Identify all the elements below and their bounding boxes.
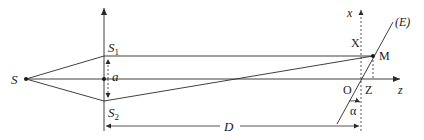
label-origin: O bbox=[343, 83, 352, 97]
angle-alpha-arc bbox=[349, 101, 360, 102]
source-point bbox=[24, 77, 28, 81]
label-z-axis: z bbox=[397, 83, 403, 97]
ray-s-to-s2 bbox=[26, 79, 104, 101]
label-slit2: S2 bbox=[108, 105, 119, 122]
label-slit1: S1 bbox=[108, 40, 119, 57]
ray-s2-to-m bbox=[104, 56, 373, 101]
point-m bbox=[371, 54, 375, 58]
label-x-coord: X bbox=[351, 36, 360, 50]
double-slit-diagram: S S1 S2 a D x (E) X M O Z z α bbox=[0, 0, 424, 140]
label-slit-separation: a bbox=[112, 69, 119, 84]
label-source: S bbox=[11, 72, 18, 87]
screen-e bbox=[337, 22, 393, 124]
diagram-canvas: S S1 S2 a D x (E) X M O Z z α bbox=[0, 0, 424, 140]
label-screen: (E) bbox=[395, 15, 410, 29]
slit-center-point bbox=[102, 77, 106, 81]
label-angle-alpha: α bbox=[350, 104, 357, 118]
label-z-coord: Z bbox=[365, 83, 372, 97]
label-x-axis: x bbox=[346, 6, 353, 20]
label-point-m: M bbox=[379, 49, 390, 63]
label-distance: D bbox=[223, 119, 234, 134]
ray-s-to-s1 bbox=[26, 56, 104, 79]
